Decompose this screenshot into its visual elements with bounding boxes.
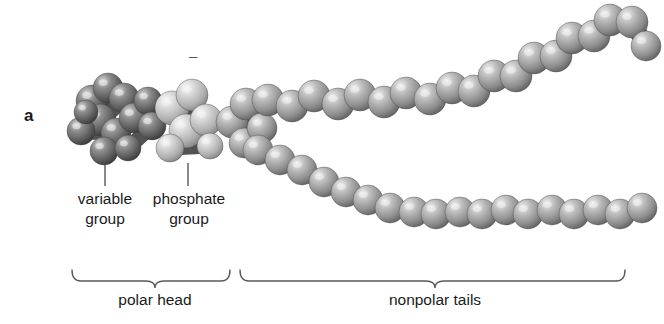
sphere-highlight (420, 90, 430, 97)
sphere-highlight (359, 191, 368, 198)
sphere-highlight (350, 86, 360, 93)
sphere-highlight (600, 11, 610, 18)
sphere-highlight (315, 173, 324, 180)
sphere-highlight (175, 121, 185, 128)
sphere-highlight (328, 95, 338, 102)
sphere-highlight (161, 140, 169, 146)
sphere-highlight (222, 113, 232, 120)
bracket-label-polar-head: polar head (75, 291, 235, 309)
sphere-highlight (337, 183, 346, 190)
sphere-highlight (82, 92, 92, 99)
atom-sphere (74, 100, 98, 124)
sphere-highlight (253, 119, 262, 126)
sphere-highlight (258, 91, 268, 98)
sphere-highlight (381, 199, 390, 206)
sphere-highlight (484, 67, 494, 74)
sphere-highlight (115, 89, 124, 96)
sphere-highlight (405, 203, 414, 210)
sphere-highlight (451, 203, 460, 210)
sphere-highlight (236, 95, 246, 102)
atom-sphere (156, 134, 184, 162)
negative-charge-symbol: – (189, 48, 197, 63)
sphere-highlight (72, 123, 80, 129)
sphere-highlight (442, 79, 452, 86)
molecule-illustration (0, 0, 664, 324)
callout-leader-lines (105, 163, 188, 186)
callout-label-phosphate-group: phosphate group (128, 189, 250, 229)
sphere-highlight (473, 205, 482, 212)
sphere-highlight (161, 98, 171, 105)
sphere-highlight (202, 138, 210, 144)
sphere-highlight (396, 84, 406, 91)
sphere-highlight (524, 49, 534, 56)
bracket-label-nonpolar-tails: nonpolar tails (345, 291, 525, 309)
sphere-highlight (633, 199, 642, 206)
panel-letter: a (24, 106, 33, 126)
sphere-highlight (143, 118, 151, 124)
sphere-highlight (427, 205, 436, 212)
sphere-highlight (584, 27, 594, 34)
sphere-highlight (304, 87, 314, 94)
sphere-highlight (107, 124, 116, 131)
sphere-highlight (565, 205, 574, 212)
bracket-polar-head (72, 270, 230, 288)
bracket-nonpolar-tails (240, 270, 625, 288)
sphere-highlight (497, 201, 506, 208)
sphere-highlight (282, 97, 292, 104)
atom-sphere (631, 31, 661, 61)
sphere-highlight (464, 82, 474, 89)
sphere-highlight (99, 79, 108, 86)
sphere-highlight (293, 161, 302, 168)
sphere-highlight (182, 86, 192, 93)
sphere-highlight (611, 205, 620, 212)
sphere-highlight (543, 201, 552, 208)
atom-sphere (115, 135, 141, 161)
atom-sphere (197, 133, 223, 159)
sphere-highlight (506, 67, 516, 74)
sphere-highlight (235, 134, 244, 141)
sphere-highlight (125, 109, 134, 116)
atom-sphere (627, 193, 657, 223)
sphere-highlight (79, 105, 86, 110)
bracket-lines (72, 270, 625, 288)
phospholipid-figure: a – variable group phosphate group polar… (0, 0, 664, 324)
sphere-highlight (519, 205, 528, 212)
sphere-highlight (95, 143, 103, 149)
sphere-highlight (271, 151, 280, 158)
sphere-highlight (120, 140, 128, 146)
sphere-highlight (546, 47, 556, 54)
sphere-highlight (562, 29, 572, 36)
sphere-highlight (374, 93, 384, 100)
sphere-highlight (196, 111, 206, 118)
sphere-highlight (589, 201, 598, 208)
sphere-highlight (249, 141, 258, 148)
atom-sphere (90, 137, 118, 165)
sphere-highlight (139, 93, 147, 99)
sphere-highlight (622, 13, 632, 20)
sphere-highlight (637, 37, 646, 44)
